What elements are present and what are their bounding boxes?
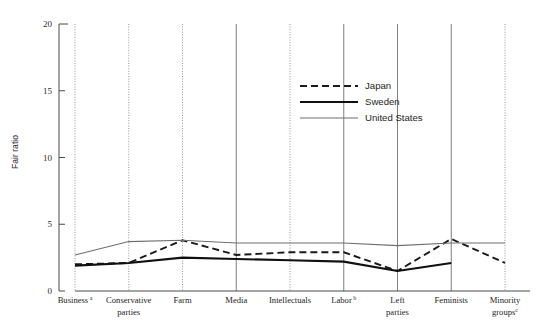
fair-ratio-line-chart: 05101520 Business aConservativepartiesFa… <box>0 0 545 331</box>
y-tick-label-20: 20 <box>43 19 53 29</box>
series-line-sweden <box>75 258 451 271</box>
x-category-label-labor: Labor b <box>331 295 356 305</box>
x-category-label-feminists: Feminists <box>435 295 469 305</box>
x-category-label-media: Media <box>225 295 247 305</box>
y-axis-title: Fair ratio <box>10 135 20 169</box>
gridlines-group <box>75 24 505 291</box>
x-category-label-line2-conservative-parties: parties <box>117 307 141 317</box>
legend-label-sweden: Sweden <box>365 96 400 107</box>
axes-group <box>59 24 530 291</box>
y-tick-label-15: 15 <box>43 86 53 96</box>
y-tick-label-10: 10 <box>43 153 53 163</box>
x-category-label-business: Business a <box>58 295 93 305</box>
legend-label-united-states: United States <box>365 112 423 123</box>
category-labels-group: Business aConservativepartiesFarmMediaIn… <box>58 295 521 317</box>
x-category-label-minority-groups: Minority <box>490 295 521 305</box>
legend-group: JapanSwedenUnited States <box>300 80 423 123</box>
x-category-label-intellectuals: Intellectuals <box>269 295 312 305</box>
chart-canvas: 05101520 Business aConservativepartiesFa… <box>0 0 545 331</box>
y-ticks-group: 05101520 <box>43 19 65 296</box>
x-category-label-conservative-parties: Conservative <box>106 295 152 305</box>
x-category-label-left-parties: Left <box>390 295 405 305</box>
y-tick-label-0: 0 <box>48 286 53 296</box>
x-category-label-line2-left-parties: parties <box>386 307 410 317</box>
legend-label-japan: Japan <box>365 80 391 91</box>
x-category-label-farm: Farm <box>173 295 191 305</box>
y-tick-label-5: 5 <box>48 219 53 229</box>
x-category-label-line2-minority-groups: groupsc <box>492 307 518 317</box>
